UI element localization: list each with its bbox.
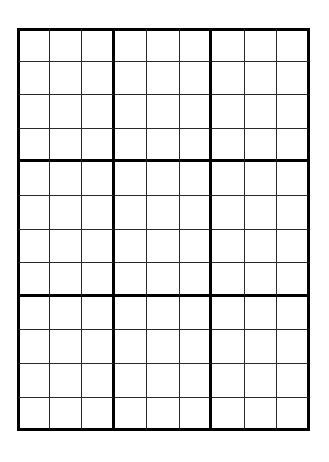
grid-cell[interactable] <box>277 230 310 264</box>
grid-cell[interactable] <box>82 398 115 432</box>
grid-cell[interactable] <box>17 129 50 163</box>
grid-cell[interactable] <box>147 263 180 297</box>
grid-cell[interactable] <box>245 398 278 432</box>
grid-cell[interactable] <box>180 62 213 96</box>
grid-cell[interactable] <box>115 398 148 432</box>
grid-cell[interactable] <box>212 162 245 196</box>
grid-cell[interactable] <box>180 162 213 196</box>
grid-cell[interactable] <box>277 28 310 62</box>
grid-cell[interactable] <box>277 162 310 196</box>
grid-cell[interactable] <box>245 364 278 398</box>
grid-cell[interactable] <box>82 162 115 196</box>
grid-cell[interactable] <box>277 263 310 297</box>
grid-cell[interactable] <box>147 129 180 163</box>
grid-cell[interactable] <box>245 263 278 297</box>
grid-cell[interactable] <box>245 62 278 96</box>
grid-cell[interactable] <box>82 263 115 297</box>
grid-cell[interactable] <box>277 95 310 129</box>
grid-cell[interactable] <box>277 330 310 364</box>
grid-cell[interactable] <box>277 129 310 163</box>
grid-cell[interactable] <box>115 62 148 96</box>
grid-cell[interactable] <box>212 196 245 230</box>
grid-cell[interactable] <box>115 95 148 129</box>
grid-cell[interactable] <box>50 297 83 331</box>
grid-cell[interactable] <box>180 398 213 432</box>
grid-cell[interactable] <box>245 297 278 331</box>
grid-cell[interactable] <box>115 330 148 364</box>
grid-cell[interactable] <box>245 129 278 163</box>
grid-cell[interactable] <box>147 196 180 230</box>
grid-cell[interactable] <box>212 95 245 129</box>
grid-cell[interactable] <box>82 28 115 62</box>
grid-cell[interactable] <box>17 297 50 331</box>
grid-cell[interactable] <box>115 129 148 163</box>
grid-cell[interactable] <box>17 162 50 196</box>
grid-cell[interactable] <box>277 364 310 398</box>
grid-cell[interactable] <box>212 62 245 96</box>
grid-cell[interactable] <box>82 297 115 331</box>
grid-cell[interactable] <box>17 263 50 297</box>
grid-cell[interactable] <box>115 28 148 62</box>
grid-cell[interactable] <box>17 364 50 398</box>
grid-cell[interactable] <box>147 330 180 364</box>
grid-cell[interactable] <box>17 398 50 432</box>
grid-cell[interactable] <box>115 263 148 297</box>
grid-cell[interactable] <box>147 62 180 96</box>
grid-cell[interactable] <box>245 95 278 129</box>
grid-cell[interactable] <box>180 330 213 364</box>
grid-cell[interactable] <box>212 364 245 398</box>
grid-cell[interactable] <box>245 196 278 230</box>
grid-cell[interactable] <box>245 330 278 364</box>
grid-cell[interactable] <box>115 364 148 398</box>
grid-cell[interactable] <box>212 230 245 264</box>
grid-cell[interactable] <box>147 95 180 129</box>
grid-cell[interactable] <box>50 263 83 297</box>
grid-cell[interactable] <box>180 297 213 331</box>
grid-cell[interactable] <box>180 263 213 297</box>
grid-cell[interactable] <box>180 364 213 398</box>
grid-cell[interactable] <box>17 330 50 364</box>
grid-cell[interactable] <box>50 364 83 398</box>
grid-cell[interactable] <box>147 230 180 264</box>
grid-cell[interactable] <box>50 330 83 364</box>
grid-cell[interactable] <box>147 28 180 62</box>
grid-cell[interactable] <box>212 28 245 62</box>
grid-cell[interactable] <box>17 230 50 264</box>
grid-cell[interactable] <box>277 297 310 331</box>
grid-cell[interactable] <box>147 398 180 432</box>
grid-cell[interactable] <box>50 162 83 196</box>
grid-cell[interactable] <box>17 95 50 129</box>
grid-cell[interactable] <box>82 330 115 364</box>
grid-cell[interactable] <box>277 398 310 432</box>
grid-cell[interactable] <box>50 95 83 129</box>
grid-cell[interactable] <box>115 196 148 230</box>
grid-cell[interactable] <box>212 398 245 432</box>
grid-cell[interactable] <box>115 297 148 331</box>
grid-cell[interactable] <box>50 28 83 62</box>
grid-cell[interactable] <box>277 62 310 96</box>
grid-cell[interactable] <box>50 196 83 230</box>
grid-cell[interactable] <box>180 28 213 62</box>
grid-cell[interactable] <box>180 95 213 129</box>
grid-cell[interactable] <box>212 263 245 297</box>
grid-cell[interactable] <box>82 129 115 163</box>
grid-cell[interactable] <box>17 28 50 62</box>
grid-cell[interactable] <box>50 230 83 264</box>
grid-cell[interactable] <box>212 129 245 163</box>
grid-cell[interactable] <box>82 95 115 129</box>
grid-cell[interactable] <box>147 297 180 331</box>
grid-cell[interactable] <box>82 62 115 96</box>
grid-cell[interactable] <box>82 230 115 264</box>
grid-cell[interactable] <box>147 162 180 196</box>
grid-cell[interactable] <box>115 230 148 264</box>
grid-cell[interactable] <box>245 230 278 264</box>
grid-cell[interactable] <box>245 162 278 196</box>
blank-grid[interactable] <box>17 28 310 431</box>
grid-cell[interactable] <box>180 196 213 230</box>
grid-cell[interactable] <box>82 196 115 230</box>
grid-cell[interactable] <box>17 62 50 96</box>
grid-cell[interactable] <box>180 129 213 163</box>
grid-cell[interactable] <box>245 28 278 62</box>
grid-cell[interactable] <box>115 162 148 196</box>
grid-cell[interactable] <box>50 129 83 163</box>
